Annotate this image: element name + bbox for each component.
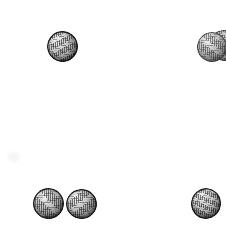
sphere-outline xyxy=(32,187,65,220)
sphere-outline xyxy=(65,188,98,220)
sphere-bottom-left-group xyxy=(32,187,65,220)
sphere-outline xyxy=(45,29,79,63)
scan-smudge xyxy=(8,152,20,162)
sphere-top-right-group xyxy=(196,31,226,63)
sphere-outline xyxy=(196,31,226,63)
sphere-bottom-right-group xyxy=(189,186,223,221)
sphere-bottom-left-group xyxy=(65,188,98,220)
sphere-top-left-group xyxy=(45,29,79,63)
scanned-plate xyxy=(0,0,226,240)
sphere-outline xyxy=(189,186,223,221)
